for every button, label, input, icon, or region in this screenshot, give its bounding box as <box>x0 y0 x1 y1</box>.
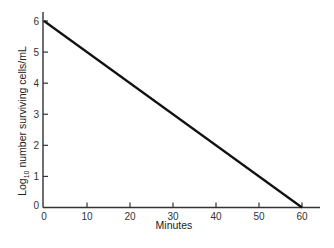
x-tick-label: 60 <box>296 211 308 222</box>
x-tick-label: 50 <box>253 211 265 222</box>
chart: 0123456 0102030405060 Minutes Log10 numb… <box>0 0 334 248</box>
y-tick-label: 5 <box>33 47 39 58</box>
data-series <box>44 21 302 208</box>
x-axis-title: Minutes <box>156 219 193 231</box>
x-tick-label: 10 <box>81 211 93 222</box>
y-axis-title-rest: number surviving cells/mL <box>16 46 28 170</box>
y-axis-title: Log10 number surviving cells/mL <box>16 46 30 196</box>
y-axis-title-subscript: 10 <box>23 170 30 178</box>
x-tick-label: 0 <box>41 211 47 222</box>
y-axis-title-log: Log <box>16 178 28 196</box>
y-tick-label: 4 <box>33 78 39 89</box>
y-tick-label: 0 <box>33 200 39 211</box>
y-tick-label: 6 <box>33 16 39 27</box>
axes <box>43 12 320 208</box>
y-axis-ticks: 0123456 <box>33 16 48 211</box>
y-tick-label: 1 <box>33 171 39 182</box>
survival-line <box>44 21 302 208</box>
x-tick-label: 40 <box>210 211 222 222</box>
y-tick-label: 2 <box>33 140 39 151</box>
y-tick-label: 3 <box>33 109 39 120</box>
x-tick-label: 20 <box>124 211 136 222</box>
